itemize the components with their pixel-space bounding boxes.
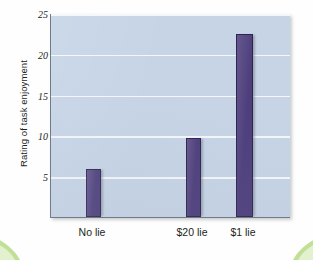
x-axis-tick-labels: No lie $20 lie $1 lie <box>50 226 290 244</box>
x-tick-20-lie: $20 lie <box>177 226 208 238</box>
gridline-10 <box>51 136 290 138</box>
y-axis-tick-labels: 25 20 15 10 5 <box>26 0 48 260</box>
y-tick-10: 10 <box>26 131 48 142</box>
y-tick-20: 20 <box>26 49 48 60</box>
chart-figure: Rating of task enjoyment 25 20 15 10 5 N… <box>0 0 313 260</box>
y-tick-25: 25 <box>26 9 48 20</box>
gridline-20 <box>51 55 290 57</box>
bar-1-lie <box>236 34 253 217</box>
plot-area <box>50 14 290 218</box>
x-tick-no-lie: No lie <box>79 226 106 238</box>
y-tick-5: 5 <box>26 172 48 183</box>
gridline-15 <box>51 96 290 98</box>
bar-20-lie <box>186 138 201 217</box>
bar-no-lie <box>86 169 101 217</box>
x-tick-1-lie: $1 lie <box>230 226 255 238</box>
gridline-25 <box>51 14 290 16</box>
y-tick-15: 15 <box>26 90 48 101</box>
